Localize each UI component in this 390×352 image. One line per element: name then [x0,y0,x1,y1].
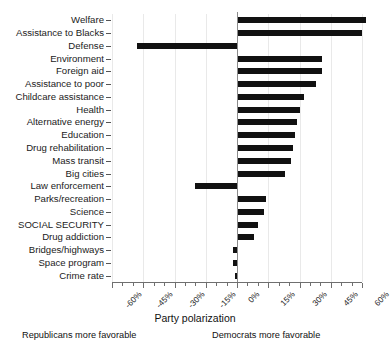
x-axis-tick-label: -30% [186,290,206,310]
category-label: Environment [50,54,104,64]
bar [237,68,322,74]
bar [237,81,316,87]
x-axis-tick-label: 60% [373,290,390,308]
x-axis-tick-label: -15% [217,290,237,310]
y-axis-tick [106,20,111,21]
category-label: Space program [38,258,104,268]
x-axis-minor-tick [133,283,134,286]
y-axis-tick [106,237,111,238]
x-axis-minor-tick [154,283,155,286]
category-label: Welfare [71,15,104,25]
y-axis-tick [106,135,111,136]
party-polarization-chart: WelfareAssistance to BlacksDefenseEnviro… [0,0,390,352]
bar [137,43,237,49]
bar [237,94,304,100]
annotation-republicans: Republicans more favorable [22,330,136,340]
x-axis-major-tick [143,283,144,288]
y-axis-tick [106,186,111,187]
category-axis-labels: WelfareAssistance to BlacksDefenseEnviro… [0,14,104,282]
x-axis-minor-tick [352,283,353,286]
bar [237,222,258,228]
category-label: Alternative energy [27,117,104,127]
x-axis-minor-tick [185,283,186,286]
y-axis-tick [106,122,111,123]
bar [195,183,237,189]
x-axis-minor-tick [289,283,290,286]
x-axis-major-tick [237,283,238,288]
x-axis-minor-tick [310,283,311,286]
y-axis-tick [106,110,111,111]
y-axis-tick [106,59,111,60]
x-axis-major-tick [362,283,363,288]
category-label: Defense [68,41,104,51]
category-label: Assistance to Blacks [16,28,104,38]
category-label: Drug rehabilitation [26,143,104,153]
x-axis-minor-tick [122,283,123,286]
bar [237,17,366,23]
y-axis-tick [106,97,111,98]
x-axis-minor-tick [279,283,280,286]
x-axis-minor-tick [164,283,165,286]
x-axis-minor-tick [195,283,196,286]
bar [237,56,322,62]
bar [237,145,293,151]
y-axis-tick [106,46,111,47]
x-axis-tick-label: 30% [310,290,328,308]
category-label: Drug addiction [42,232,104,242]
category-label: SOCIAL SECURITY [18,220,104,230]
category-label: Science [70,207,104,217]
x-axis-minor-tick [320,283,321,286]
y-axis-tick [106,71,111,72]
category-label: Crime rate [59,271,104,281]
y-axis-tick [106,212,111,213]
x-axis-major-tick [175,283,176,288]
category-label: Bridges/highways [29,245,104,255]
x-axis-tick-label: 45% [342,290,360,308]
bar [237,107,300,113]
category-label: Childcare assistance [15,92,104,102]
x-axis-minor-tick [247,283,248,286]
x-axis-minor-tick [341,283,342,286]
y-axis-tick [106,250,111,251]
category-label: Health [76,105,104,115]
annotation-democrats: Democrats more favorable [212,330,320,340]
bar [237,209,264,215]
category-label: Law enforcement [30,181,104,191]
x-axis-tick-label: 0% [246,290,261,305]
category-label: Education [61,130,104,140]
gridline [362,14,363,282]
bar [237,234,254,240]
category-label: Mass transit [52,156,104,166]
bar [237,196,266,202]
y-axis-tick [106,174,111,175]
x-axis-major-tick [112,283,113,288]
x-axis-major-tick [268,283,269,288]
category-label: Foreign aid [56,66,104,76]
category-label: Assistance to poor [25,79,104,89]
y-axis-tick [106,276,111,277]
y-axis-tick [106,161,111,162]
x-axis-title: Party polarization [0,312,390,324]
plot-area [112,14,362,282]
category-label: Parks/recreation [34,194,104,204]
x-axis-tick-label: -45% [155,290,175,310]
x-axis-minor-tick [216,283,217,286]
y-axis-tick [106,33,111,34]
y-axis-tick [106,263,111,264]
zero-line [237,12,238,282]
bar [237,30,362,36]
x-axis-tick-label: 15% [279,290,297,308]
y-axis-tick [106,225,111,226]
x-axis-tick-label: -60% [124,290,144,310]
x-axis-minor-tick [258,283,259,286]
y-axis-tick [106,199,111,200]
bar [237,119,297,125]
x-axis-minor-tick [227,283,228,286]
bar [237,132,295,138]
y-axis-tick [106,148,111,149]
bar [237,158,291,164]
bar [237,171,285,177]
x-axis-major-tick [206,283,207,288]
x-axis-major-tick [300,283,301,288]
category-label: Big cities [66,169,104,179]
